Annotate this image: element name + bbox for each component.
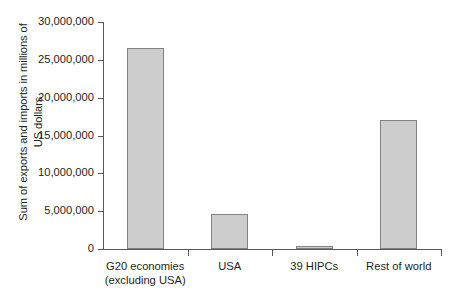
bar <box>211 214 248 249</box>
x-axis-label: Rest of world <box>357 259 442 273</box>
bar <box>127 48 164 249</box>
y-axis-tick-label: 0 <box>12 243 94 254</box>
bar <box>380 120 417 249</box>
x-axis-tick <box>441 250 442 256</box>
y-axis-tick-label: 20,000,000 <box>12 92 94 103</box>
x-axis-label: G20 economies (excluding USA) <box>103 259 188 287</box>
x-axis-label: 39 HIPCs <box>272 259 357 273</box>
bar-chart: Sum of exports and imports in millions o… <box>0 0 461 292</box>
y-axis-tick-label: 10,000,000 <box>12 167 94 178</box>
y-axis-tick-label: 5,000,000 <box>12 205 94 216</box>
x-axis-tick <box>357 250 358 256</box>
bar <box>296 246 333 249</box>
x-axis-label: USA <box>188 259 273 273</box>
y-axis-tick-label: 30,000,000 <box>12 16 94 27</box>
y-axis-tick-label: 15,000,000 <box>12 130 94 141</box>
plot-area <box>103 22 441 249</box>
y-axis-tick <box>98 249 103 250</box>
x-axis-tick <box>272 250 273 256</box>
x-axis-tick <box>188 250 189 256</box>
y-axis-tick-label: 25,000,000 <box>12 54 94 65</box>
